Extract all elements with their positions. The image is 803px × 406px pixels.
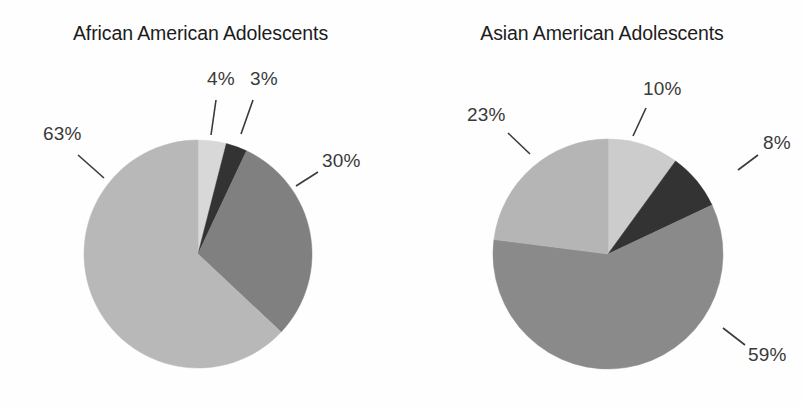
percent-label-slice-4: 4% <box>207 68 235 90</box>
pie-chart-figure: African American Adolescents Asian Ameri… <box>0 0 803 406</box>
percent-label-slice-23: 23% <box>467 104 506 126</box>
pie-label-layer: 4%3%30%63%10%8%59%23% <box>0 0 803 406</box>
percent-label-slice-10: 10% <box>643 78 682 100</box>
percent-label-slice-8: 8% <box>763 132 791 154</box>
percent-label-slice-3: 3% <box>250 68 278 90</box>
percent-label-slice-30: 30% <box>322 150 361 172</box>
percent-label-slice-59: 59% <box>748 344 787 366</box>
percent-label-slice-63: 63% <box>43 123 82 145</box>
